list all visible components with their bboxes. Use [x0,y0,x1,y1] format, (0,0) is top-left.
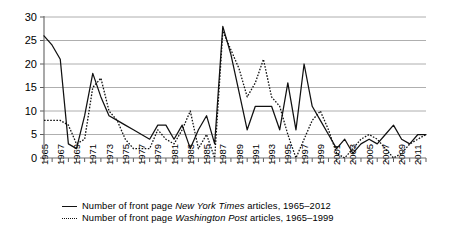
x-tick-label: 2001 [331,144,342,165]
x-tick-label: 1979 [152,144,163,165]
y-tick-label: 0 [31,152,37,164]
y-tick-label: 5 [31,128,37,140]
x-tick-label: 1971 [87,144,98,165]
y-tick-label: 15 [25,81,37,93]
chart-figure: 051015202530 196519671969197119731975197… [0,0,451,242]
y-tick-label: 30 [25,11,37,23]
legend-prefix-nyt: Number of front page [82,200,175,211]
dotted-line-swatch-icon [62,215,77,223]
y-axis-ticks-group: 051015202530 [25,11,44,164]
legend-suffix-nyt: articles, 1965–2012 [244,200,330,211]
legend-item-washington-post: Number of front page Washington Post art… [62,212,334,224]
legend-label-washington-post: Number of front page Washington Post art… [82,212,334,224]
chart-legend: Number of front page New York Times arti… [62,200,334,225]
x-tick-label: 1977 [136,144,147,165]
legend-item-new-york-times: Number of front page New York Times arti… [62,200,334,212]
legend-label-new-york-times: Number of front page New York Times arti… [82,200,331,212]
x-tick-label: 1975 [120,144,131,165]
x-tick-label: 2005 [364,144,375,165]
x-tick-label: 1987 [217,144,228,165]
legend-source-wp: Washington Post [175,212,247,223]
x-tick-label: 1991 [250,144,261,165]
x-tick-label: 1967 [55,144,66,165]
legend-suffix-wp: articles, 1965–1999 [247,212,333,223]
y-tick-label: 10 [25,105,37,117]
x-tick-label: 1985 [201,144,212,165]
solid-line-swatch-icon [62,202,77,210]
x-tick-label: 1993 [266,144,277,165]
legend-source-nyt: New York Times [175,200,244,211]
x-tick-label: 1995 [282,144,293,165]
x-tick-label: 1999 [315,144,326,165]
x-tick-label: 2009 [396,144,407,165]
x-tick-label: 2007 [380,144,391,165]
y-tick-label: 20 [25,58,37,70]
legend-prefix-wp: Number of front page [82,212,175,223]
x-tick-label: 1973 [104,144,115,165]
x-tick-label: 2011 [412,145,423,165]
x-tick-label: 1981 [169,144,180,165]
x-tick-label: 1989 [234,144,245,165]
y-tick-label: 25 [25,34,37,46]
